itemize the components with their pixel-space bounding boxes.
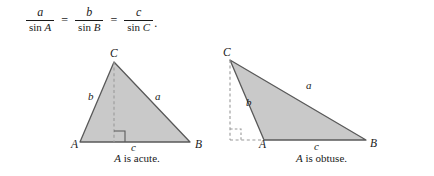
acute-triangle-shape	[80, 62, 190, 142]
numerator-a: a	[31, 6, 49, 20]
acute-triangle-drawing	[62, 48, 212, 152]
law-of-sines-formula: a sin A = b sin B = c sin C .	[26, 6, 157, 33]
vertex-label-B: B	[370, 137, 377, 149]
denominator-sin-B: sin B	[75, 21, 103, 34]
acute-triangle-figure: A B C b a c A is acute.	[62, 48, 212, 176]
numerator-c: c	[130, 6, 147, 20]
vertex-label-C: C	[223, 46, 231, 58]
formula-period: .	[154, 16, 157, 33]
right-angle-marker	[230, 129, 241, 140]
fraction-c-over-sin-C: c sin C	[124, 6, 153, 33]
equals-sign-2: =	[110, 12, 117, 28]
denominator-sin-A: sin A	[26, 21, 54, 34]
vertex-label-A: A	[259, 138, 266, 150]
law-of-sines-figure: a sin A = b sin B = c sin C . A B	[0, 0, 434, 176]
equals-sign-1: =	[61, 12, 68, 28]
caption-text: is obtuse.	[303, 152, 347, 164]
obtuse-triangle-figure: C A B b a c A is obtuse.	[214, 48, 429, 176]
angle-variable-C: C	[143, 21, 150, 33]
acute-caption: A is acute.	[62, 152, 212, 164]
side-label-b: b	[88, 90, 94, 102]
denominator-sin-C: sin C	[124, 21, 153, 34]
side-label-c: c	[314, 140, 319, 152]
numerator-b: b	[80, 6, 98, 20]
caption-variable: A	[114, 152, 121, 164]
side-label-b: b	[246, 96, 252, 108]
sin-function-name: sin	[29, 21, 42, 33]
fraction-a-over-sin-A: a sin A	[26, 6, 54, 33]
vertex-label-B: B	[195, 138, 202, 150]
fraction-b-over-sin-B: b sin B	[75, 6, 103, 33]
vertex-label-A: A	[71, 138, 78, 150]
vertex-label-C: C	[110, 47, 118, 59]
caption-variable: A	[296, 152, 303, 164]
sin-function-name: sin	[127, 21, 140, 33]
side-label-a: a	[306, 79, 312, 91]
obtuse-caption: A is obtuse.	[214, 152, 429, 164]
angle-variable-B: B	[94, 21, 101, 33]
side-label-a: a	[155, 90, 161, 102]
caption-text: is acute.	[121, 152, 160, 164]
angle-variable-A: A	[45, 21, 52, 33]
sin-function-name: sin	[78, 21, 91, 33]
